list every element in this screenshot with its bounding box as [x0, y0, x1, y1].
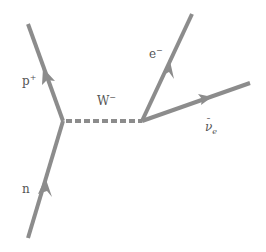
proton-label: p+ — [22, 75, 36, 87]
w-boson-label: W− — [97, 95, 116, 107]
antineutrino-label: ¯νe — [205, 121, 217, 133]
electron-label: e− — [149, 48, 163, 60]
neutron-label: n — [22, 183, 30, 195]
feynman-diagram — [0, 0, 266, 252]
